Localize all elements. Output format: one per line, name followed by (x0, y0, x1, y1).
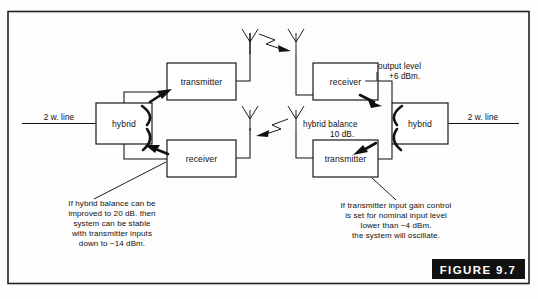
right-hybrid-to-transmitter-wire (378, 144, 392, 159)
right-transmitter-label: transmitter (325, 154, 367, 164)
right-receiver-to-hybrid-wire (378, 81, 392, 103)
signal-flow-diagram: 2 w. line 2 w. line hybrid transmitter r… (0, 0, 538, 299)
right-transmitter-to-antenna-wire (296, 131, 313, 158)
antenna-icon-right-receive (288, 29, 304, 54)
right-hybrid-label: hybrid (408, 119, 432, 129)
output-level-label-line2: +6 dBm. (389, 72, 420, 81)
left-antenna-to-receiver-wire (236, 128, 250, 158)
right-note-line1: If transmitter input gain control (341, 201, 452, 210)
output-level-label-line1: output level (378, 62, 421, 71)
hybrid-balance-label-line1: hybrid balance (303, 120, 358, 129)
left-receiver-label: receiver (186, 154, 217, 164)
left-note-leader (94, 162, 166, 199)
figure-label-text: FIGURE 9.7 (440, 264, 517, 276)
right-antenna-to-receiver-wire (296, 54, 313, 95)
right-annotation-note: If transmitter input gain control is set… (341, 201, 452, 240)
right-receiver-label: receiver (330, 77, 361, 87)
left-note-line5: down to −14 dBm. (79, 239, 145, 248)
left-annotation-note: If hybrid balance can be improved to 20 … (68, 199, 156, 248)
antenna-icon-left-transmit (242, 29, 258, 54)
left-receiver-output-arrow (145, 145, 168, 154)
rf-propagation-arrow-upper (259, 34, 291, 52)
left-note-line3: system can be stable (73, 219, 151, 228)
right-note-line4: the system will oscillate. (352, 231, 440, 240)
right-note-leader (372, 178, 396, 200)
left-note-line4: with transmitter inputs (71, 229, 152, 238)
antenna-icon-left-receive (242, 106, 258, 131)
left-transmitter-to-antenna-wire (236, 33, 250, 81)
left-note-line1: If hybrid balance can be (68, 199, 156, 208)
right-note-line3: lower than −4 dBm. (361, 221, 432, 230)
antenna-icon-right-transmit (288, 106, 304, 131)
left-hybrid-label: hybrid (112, 119, 136, 129)
left-2w-line-label: 2 w. line (44, 113, 75, 122)
hybrid-balance-label-line2: 10 dB. (330, 130, 354, 139)
left-transmitter-label: transmitter (181, 77, 223, 87)
right-2w-line-label: 2 w. line (468, 113, 499, 122)
right-note-line2: is set for nominal input level (345, 211, 447, 220)
left-note-line2: improved to 20 dB. then (68, 209, 155, 218)
rf-propagation-arrow-lower (256, 119, 288, 137)
figure-root: 2 w. line 2 w. line hybrid transmitter r… (0, 0, 538, 299)
